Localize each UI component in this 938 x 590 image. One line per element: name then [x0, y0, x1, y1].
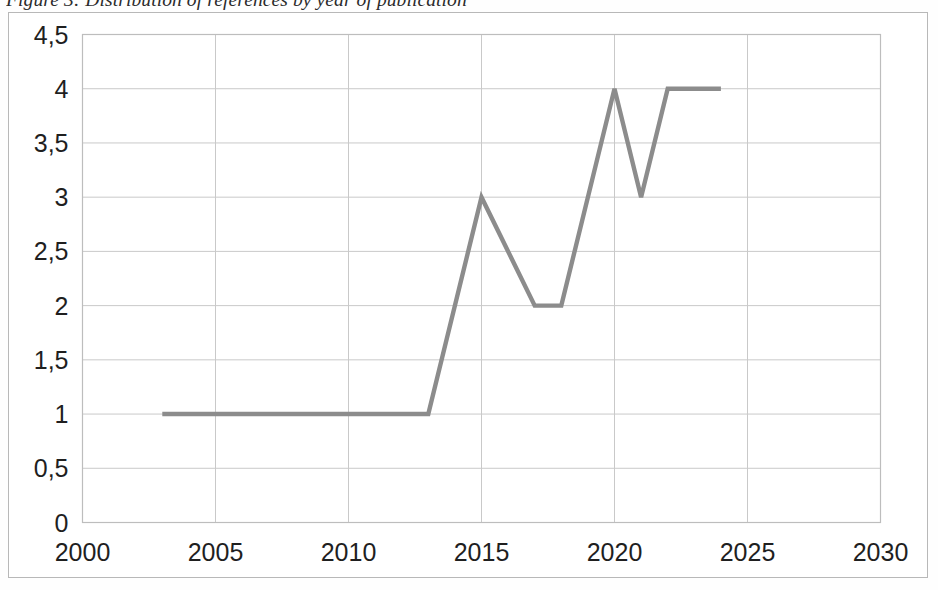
x-axis-tick-label: 2025	[720, 538, 776, 566]
x-gridlines	[216, 35, 748, 523]
y-axis-tick-labels: 00,511,522,533,544,5	[34, 21, 69, 537]
line-chart: 00,511,522,533,544,5 2000200520102015202…	[0, 0, 938, 590]
y-axis-tick-label: 1,5	[34, 346, 69, 374]
y-axis-tick-label: 1	[55, 400, 69, 428]
x-axis-tick-label: 2030	[853, 538, 909, 566]
x-axis-tick-label: 2015	[454, 538, 510, 566]
y-axis-tick-label: 4,5	[34, 21, 69, 49]
x-axis-tick-labels: 2000200520102015202020252030	[55, 538, 909, 566]
y-axis-tick-label: 2	[55, 292, 69, 320]
y-axis-tick-label: 3	[55, 183, 69, 211]
x-axis-tick-label: 2020	[587, 538, 643, 566]
y-axis-tick-label: 4	[55, 75, 69, 103]
y-axis-tick-label: 0	[55, 509, 69, 537]
y-axis-tick-label: 3,5	[34, 129, 69, 157]
x-axis-tick-label: 2010	[321, 538, 377, 566]
x-axis-tick-label: 2005	[188, 538, 244, 566]
x-axis-tick-label: 2000	[55, 538, 111, 566]
y-axis-tick-label: 2,5	[34, 237, 69, 265]
y-axis-tick-label: 0,5	[34, 454, 69, 482]
